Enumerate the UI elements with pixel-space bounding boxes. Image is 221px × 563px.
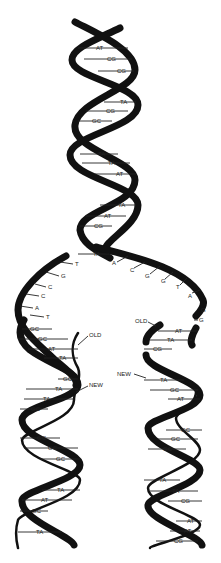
base-label: GC — [38, 336, 48, 342]
base-label: CG — [94, 223, 103, 229]
base-pair-rung — [30, 315, 44, 317]
base-label: GC — [56, 456, 66, 462]
base-label: TA — [108, 160, 115, 166]
old-label-right: OLD — [135, 318, 148, 324]
base-label: TA — [172, 488, 179, 494]
base-label: AT — [177, 396, 185, 402]
base-label: CG — [117, 68, 126, 74]
base-label: GC — [30, 326, 40, 332]
right-daughter-helix: AT TA CG TA GC AT GC GC GC TA TA CG AT A… — [117, 318, 202, 548]
base-label: GC — [181, 427, 191, 433]
base-label: GC — [37, 435, 47, 441]
base-label: AT — [175, 328, 183, 334]
base-label: AT — [184, 528, 192, 534]
base-label: GC — [170, 387, 180, 393]
base-label: TA — [167, 337, 174, 343]
base-label: TA — [159, 477, 166, 483]
base-label: CG — [174, 538, 183, 544]
dna-replication-diagram: AT CG CG TA CG GC TA TA AT TA AT CG TA T — [0, 0, 221, 563]
base-label: AT — [116, 171, 124, 177]
base-label: TA — [43, 396, 50, 402]
base-label: TA — [93, 251, 100, 257]
old-leader-line-left — [78, 336, 88, 345]
base-label: A — [112, 260, 116, 266]
base-label: TA — [55, 386, 62, 392]
new-leader-line-right — [134, 374, 146, 378]
left-daughter-helix: GC GC AT TA GC TA TA GC GC GC GC TA AT G… — [16, 320, 103, 548]
base-label: TA — [57, 487, 64, 493]
base-label: C — [130, 267, 135, 273]
fork-right-labels: A C G G T A G G — [112, 260, 206, 323]
base-label: G — [161, 278, 166, 284]
base-label: C — [41, 293, 46, 299]
base-label: T — [75, 261, 79, 267]
base-label: A — [35, 305, 39, 311]
old-leader-line-right — [148, 322, 156, 326]
base-label: AT — [96, 45, 104, 51]
base-label: CG — [106, 108, 115, 114]
base-label: AT — [41, 497, 49, 503]
base-label: G — [201, 307, 206, 313]
base-label: AT — [48, 346, 56, 352]
base-label: CG — [181, 498, 190, 504]
parent-helix: AT CG CG TA CG GC TA TA AT TA AT CG TA — [70, 22, 138, 258]
new-label-left: NEW — [89, 382, 103, 388]
new-label-right: NEW — [117, 371, 131, 377]
base-label: GC — [32, 508, 42, 514]
base-pair-rung — [46, 272, 59, 276]
base-label: TA — [59, 355, 66, 361]
base-label: TA — [118, 202, 125, 208]
base-label: GC — [31, 406, 41, 412]
old-label-left: OLD — [89, 332, 102, 338]
base-label: G — [61, 273, 66, 279]
base-label: AT — [104, 213, 112, 219]
base-label: GC — [163, 446, 173, 452]
base-label: C — [48, 284, 53, 290]
base-label: TA — [36, 529, 43, 535]
base-label: GC — [171, 436, 181, 442]
base-label: CG — [107, 56, 116, 62]
base-label: G — [145, 273, 150, 279]
base-pair-rung — [60, 262, 73, 264]
base-label: TA — [120, 99, 127, 105]
base-label: GC — [92, 118, 102, 124]
base-label: TA — [160, 377, 167, 383]
base-label: GC — [63, 376, 73, 382]
base-label: AT — [187, 518, 195, 524]
base-label: TA — [98, 151, 105, 157]
base-label: CG — [153, 346, 162, 352]
right-daughter-old-strand — [146, 325, 202, 545]
replication-fork: T G C C A T A C G G T A G G — [18, 247, 206, 385]
base-pair-rung — [134, 262, 145, 268]
base-label: T — [176, 284, 180, 290]
base-pair-rung — [20, 306, 33, 308]
base-label: GC — [48, 445, 58, 451]
base-label: A — [188, 293, 192, 299]
base-pair-rung — [35, 284, 46, 287]
base-pair-rung — [26, 294, 39, 296]
base-label: T — [46, 314, 50, 320]
base-label: G — [199, 317, 204, 323]
